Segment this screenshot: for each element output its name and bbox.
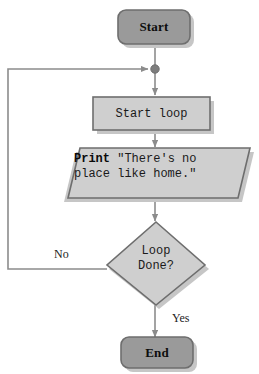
node-start-loop[interactable]: [93, 97, 210, 130]
node-loop-done-label: Loop Done?: [107, 244, 205, 274]
node-print-label: Print "There's no place like home.": [74, 152, 244, 182]
print-line-1: Print "There's no: [74, 152, 196, 167]
node-end[interactable]: [121, 337, 193, 368]
print-line-1-rest: "There's no: [110, 152, 196, 166]
decision-line-2: Done?: [138, 259, 174, 274]
print-keyword: Print: [74, 152, 110, 166]
flowchart-canvas: [0, 0, 259, 374]
print-line-2: place like home.": [74, 167, 196, 182]
node-start[interactable]: [118, 10, 190, 44]
edge-label-no: No: [54, 247, 69, 262]
edge-label-yes: Yes: [172, 311, 189, 326]
merge-junction-dot: [151, 65, 159, 73]
decision-line-1: Loop: [142, 244, 171, 259]
